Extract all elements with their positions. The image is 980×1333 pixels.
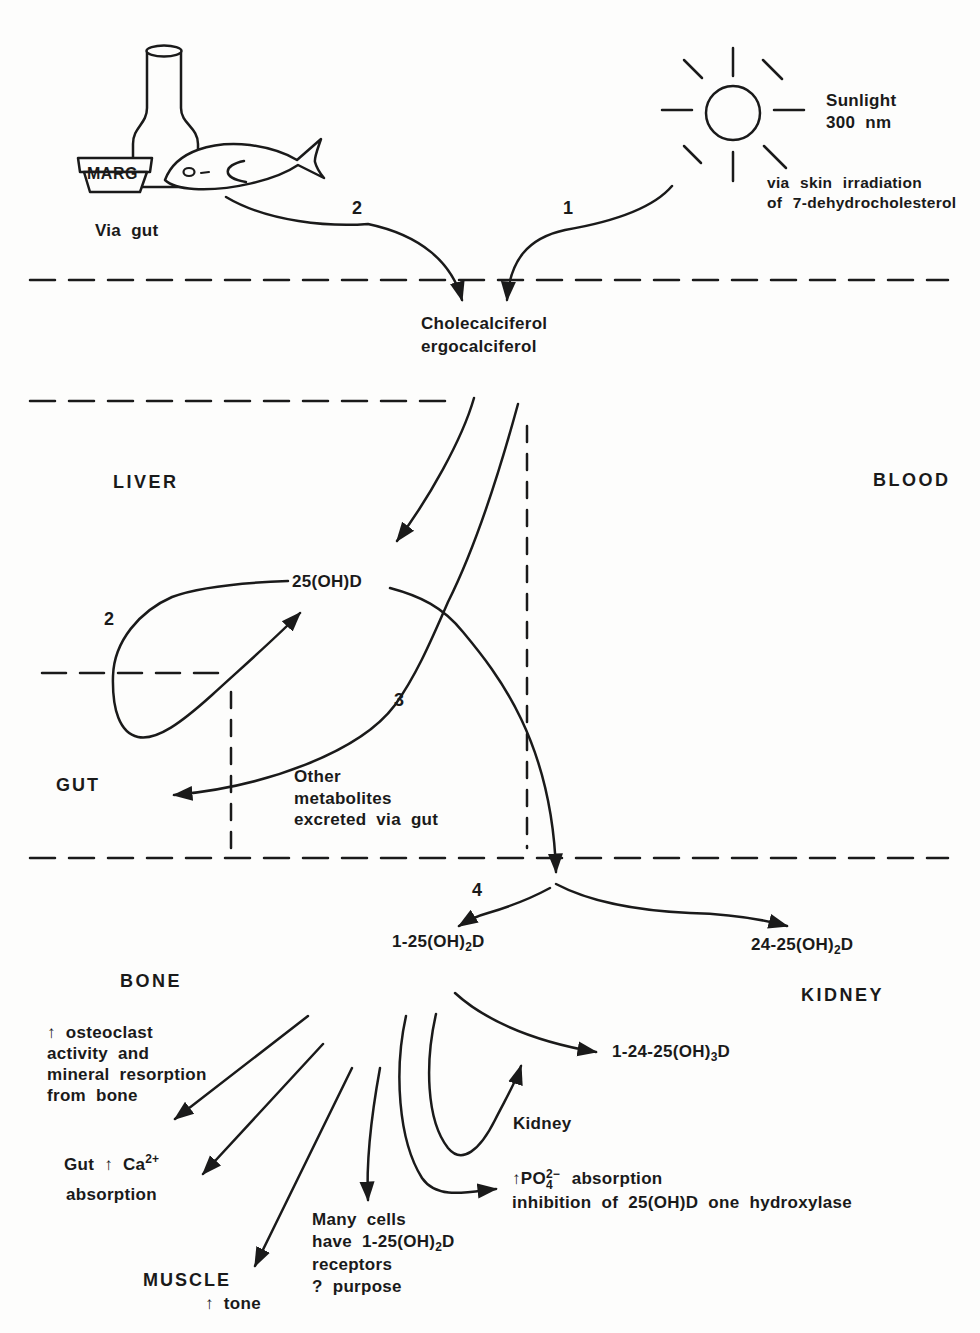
osteoclast-line3: mineral resorption xyxy=(47,1064,207,1085)
metabolite-125ohd-sub: 2 xyxy=(465,940,472,954)
metabolite-125ohd-pre: 1-25(OH) xyxy=(392,932,465,951)
arrow-sun-to-cholecalciferol xyxy=(507,186,672,300)
arrow-to-gut-calcium xyxy=(203,1044,323,1174)
step-4-label: 4 xyxy=(472,880,482,902)
vitamin-d-metabolism-diagram: MARG Via gut Sunlight 300 nm via skin ir… xyxy=(0,0,980,1333)
many-cells-line4: ? purpose xyxy=(312,1276,454,1298)
compartment-liver: LIVER xyxy=(113,472,179,494)
many-cells-line2: have 1-25(OH)2D xyxy=(312,1231,454,1255)
arrow-metabolites-to-gut xyxy=(174,404,518,795)
step-2-label: 2 xyxy=(352,198,362,220)
osteoclast-line4: from bone xyxy=(47,1085,207,1106)
margarine-label: MARG xyxy=(87,163,138,185)
arrow-to-many-cells xyxy=(368,1068,380,1200)
other-metabolites-line2: metabolites xyxy=(294,788,438,810)
sunlight-line1: Sunlight xyxy=(826,90,896,112)
cholecalciferol-label: Cholecalciferol ergocalciferol xyxy=(421,312,547,358)
many-cells-line2-post: D xyxy=(442,1232,455,1251)
osteoclast-line1: ↑ osteoclast xyxy=(47,1022,207,1043)
arrow-to-12425ohd xyxy=(455,993,596,1052)
step-1-label: 1 xyxy=(563,198,573,220)
arrow-enterohepatic-loop xyxy=(113,581,300,738)
osteoclast-line2: activity and xyxy=(47,1043,207,1064)
gut-calcium-text: Gut ↑ Ca xyxy=(64,1155,145,1174)
gut-calcium-sup: 2+ xyxy=(145,1152,159,1166)
muscle-tone-note: ↑ tone xyxy=(205,1293,261,1315)
metabolite-12425ohd-pre: 1-24-25(OH) xyxy=(612,1042,711,1061)
compartment-blood: BLOOD xyxy=(873,470,951,492)
arrow-cholecalciferol-to-liver xyxy=(397,398,474,541)
metabolite-25ohd: 25(OH)D xyxy=(292,571,362,593)
skin-irradiation-note: via skin irradiation of 7-dehydrocholest… xyxy=(767,173,956,213)
sunlight-label: Sunlight 300 nm xyxy=(826,90,896,133)
metabolite-125ohd: 1-25(OH)2D xyxy=(392,931,485,955)
compartment-gut: GUT xyxy=(56,775,100,797)
many-cells-line2-sub: 2 xyxy=(435,1240,442,1254)
metabolite-125ohd-post: D xyxy=(472,932,485,951)
many-cells-note: Many cells have 1-25(OH)2D receptors ? p… xyxy=(312,1209,454,1297)
po4-sub: 4 xyxy=(546,1180,560,1191)
step-2-loop-label: 2 xyxy=(104,609,114,631)
metabolite-12425ohd: 1-24-25(OH)3D xyxy=(612,1041,730,1065)
other-metabolites-line1: Other xyxy=(294,766,438,788)
metabolite-2425ohd: 24-25(OH)2D xyxy=(751,934,853,958)
po4-absorption-note: ↑PO2−4absorption xyxy=(512,1168,663,1191)
kidney-enzyme-label: Kidney xyxy=(513,1113,571,1135)
other-metabolites-note: Other metabolites excreted via gut xyxy=(294,766,438,831)
gut-calcium-note: Gut ↑ Ca2+ xyxy=(64,1154,159,1178)
many-cells-line1: Many cells xyxy=(312,1209,454,1231)
metabolite-12425ohd-post: D xyxy=(717,1042,730,1061)
skin-note-line1: via skin irradiation xyxy=(767,173,956,193)
hydroxylase-inhibition-note: inhibition of 25(OH)D one hydroxylase xyxy=(512,1192,852,1214)
many-cells-line2-pre: have 1-25(OH) xyxy=(312,1232,435,1251)
cholecalciferol-line1: Cholecalciferol xyxy=(421,312,547,335)
step-3-label: 3 xyxy=(394,690,404,712)
metabolite-12425ohd-sub: 3 xyxy=(711,1050,718,1064)
osteoclast-note: ↑ osteoclast activity and mineral resorp… xyxy=(47,1022,207,1106)
metabolite-2425ohd-post: D xyxy=(841,935,854,954)
arrow-to-2425ohd xyxy=(556,884,787,926)
po4-word: absorption xyxy=(572,1169,663,1188)
other-metabolites-line3: excreted via gut xyxy=(294,809,438,831)
sun-icon xyxy=(662,48,804,181)
many-cells-line3: receptors xyxy=(312,1254,454,1276)
sunlight-line2: 300 nm xyxy=(826,112,896,134)
via-gut-label: Via gut xyxy=(95,220,158,242)
po4-stack: 2−4 xyxy=(546,1169,560,1191)
arrow-kidney-conversion xyxy=(429,1014,521,1155)
up-arrow-glyph: ↑ xyxy=(512,1169,521,1188)
skin-note-line2: of 7-dehydrocholesterol xyxy=(767,193,956,213)
compartment-muscle: MUSCLE xyxy=(143,1270,231,1292)
arrow-diet-to-cholecalciferol xyxy=(226,197,462,300)
po4-pre: PO xyxy=(521,1169,546,1188)
arrow-to-po4 xyxy=(399,1016,496,1193)
cholecalciferol-line2: ergocalciferol xyxy=(421,335,547,358)
compartment-bone: BONE xyxy=(120,971,182,993)
metabolite-2425ohd-pre: 24-25(OH) xyxy=(751,935,834,954)
compartment-kidney: KIDNEY xyxy=(801,985,884,1007)
metabolite-2425ohd-sub: 2 xyxy=(834,943,841,957)
gut-calcium-line2: absorption xyxy=(66,1184,157,1206)
